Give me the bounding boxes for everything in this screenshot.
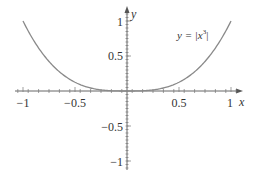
x-axis-title: x (238, 95, 245, 109)
y-tick-label: −1 (110, 155, 123, 169)
x-axis-arrow-icon (236, 89, 243, 94)
x-tick-label: −1 (17, 96, 30, 110)
y-tick-label: 0.5 (108, 49, 123, 63)
x-tick-label: 1 (227, 96, 233, 110)
x-tick-label: 0.5 (172, 96, 187, 110)
y-axis (125, 6, 132, 170)
x-axis (15, 87, 243, 94)
y-tick-label: −0.5 (101, 120, 123, 134)
equation-label: y = |x3| (176, 28, 208, 41)
y-axis-title: y (130, 7, 137, 21)
x-tick-label: −0.5 (64, 96, 86, 110)
chart: −1 −0.5 0.5 1 x 1 0.5 −0.5 −1 y y = |x3| (0, 0, 254, 180)
y-tick-label: 1 (117, 15, 123, 29)
y-axis-arrow-icon (125, 6, 130, 13)
